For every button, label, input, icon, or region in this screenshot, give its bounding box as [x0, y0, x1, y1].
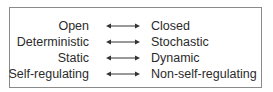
left-term: Open [58, 18, 89, 34]
double-arrow-icon [106, 70, 140, 78]
right-term: Non-self-regulating [151, 66, 257, 82]
pair-row: Open Closed [10, 18, 261, 34]
pair-row: Self-regulating Non-self-regulating [10, 66, 261, 82]
right-term: Dynamic [151, 50, 200, 66]
right-term: Stochastic [151, 34, 209, 50]
pair-row: Static Dynamic [10, 50, 261, 66]
left-term: Self-regulating [8, 66, 89, 82]
left-term: Deterministic [17, 34, 89, 50]
double-arrow-icon [106, 22, 140, 30]
right-term: Closed [151, 18, 190, 34]
double-arrow-icon [106, 54, 140, 62]
double-arrow-icon [106, 38, 140, 46]
left-term: Static [58, 50, 89, 66]
pair-row: Deterministic Stochastic [10, 34, 261, 50]
diagram-frame: Open Closed Deterministic Stochastic Sta… [9, 7, 262, 88]
